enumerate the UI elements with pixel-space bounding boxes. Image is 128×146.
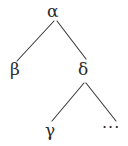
edge-delta-ellipsis (86, 83, 116, 121)
edge-alpha-beta (17, 21, 54, 61)
tree-node-delta: δ (78, 61, 88, 78)
tree-diagram: α β δ γ ··· (0, 0, 128, 146)
edge-delta-gamma (52, 83, 84, 121)
tree-node-ellipsis: ··· (102, 120, 120, 136)
tree-node-beta: β (10, 61, 20, 78)
tree-node-gamma: γ (45, 122, 55, 139)
edge-alpha-delta (57, 21, 86, 59)
tree-node-alpha: α (47, 3, 58, 20)
